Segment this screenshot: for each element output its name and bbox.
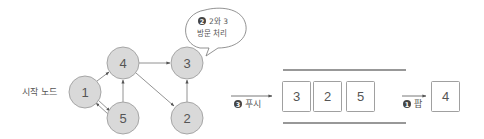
edge-1-5 xyxy=(98,100,110,111)
svg-text:4: 4 xyxy=(442,89,449,104)
svg-text:5: 5 xyxy=(357,89,364,104)
pop-label: 팝 xyxy=(414,98,422,109)
start-node-label: 시작 노드 xyxy=(22,87,57,97)
svg-text:3: 3 xyxy=(183,56,190,71)
graph-node-1: 1 xyxy=(69,76,101,108)
graph-node-5: 5 xyxy=(107,102,139,134)
push-indicator: 3 푸시 xyxy=(231,96,272,109)
graph-node-4: 4 xyxy=(107,47,139,79)
svg-text:2: 2 xyxy=(200,18,205,26)
svg-text:4: 4 xyxy=(119,56,126,71)
svg-text:1: 1 xyxy=(81,85,88,100)
svg-text:1: 1 xyxy=(405,101,410,109)
edge-5-1 xyxy=(96,103,108,114)
svg-text:3: 3 xyxy=(293,89,300,104)
stack-item: 2 xyxy=(314,82,342,112)
graph-node-2: 2 xyxy=(171,102,203,134)
push-label: 푸시 xyxy=(245,99,261,109)
svg-text:2: 2 xyxy=(324,89,331,104)
bubble-line1: 2와 3 xyxy=(209,16,228,26)
stack-item: 5 xyxy=(347,82,375,112)
edge-1-4 xyxy=(97,72,109,81)
edge-4-2 xyxy=(136,73,174,106)
popped-item: 4 xyxy=(432,82,460,112)
svg-text:5: 5 xyxy=(119,111,126,126)
svg-text:3: 3 xyxy=(236,101,241,109)
bubble-line2: 방문 처리 xyxy=(197,28,227,38)
pop-indicator: 1 팝 xyxy=(402,96,426,109)
stack-item: 3 xyxy=(283,82,311,112)
graph-node-3: 3 xyxy=(171,47,203,79)
svg-text:2: 2 xyxy=(183,111,190,126)
dfs-stack-diagram: 시작 노드 1 4 5 3 2 2 xyxy=(0,0,484,139)
